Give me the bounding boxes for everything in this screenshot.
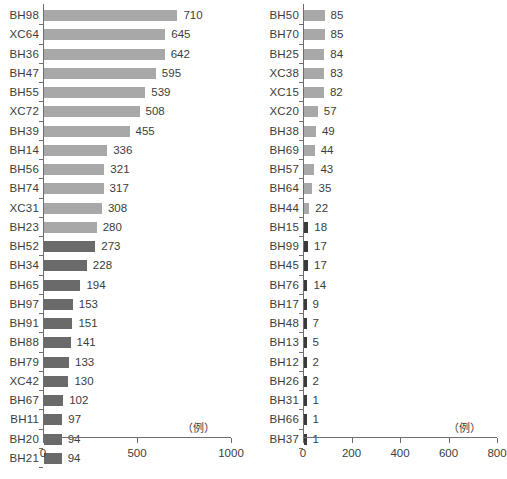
bar-value-label: 273 xyxy=(101,237,120,256)
bar xyxy=(304,68,324,79)
bar xyxy=(44,10,177,21)
bar xyxy=(44,260,87,271)
bar-row: BH7085 xyxy=(253,25,505,44)
bar-value-label: 85 xyxy=(331,25,344,44)
category-label: BH25 xyxy=(259,45,299,64)
bar-value-label: 642 xyxy=(171,45,190,64)
category-label: BH74 xyxy=(0,179,39,198)
bar-row: XC72508 xyxy=(0,102,252,121)
bar xyxy=(44,434,62,445)
category-label: BH88 xyxy=(0,333,39,352)
bar-value-label: 153 xyxy=(79,295,98,314)
bar-value-label: 85 xyxy=(331,6,344,25)
bar-row: BH97153 xyxy=(0,295,252,314)
bar xyxy=(304,376,307,387)
bar-row: BH47595 xyxy=(0,64,252,83)
bar xyxy=(304,164,314,175)
bar xyxy=(44,414,62,425)
bar-row: BH3849 xyxy=(253,122,505,141)
bar-value-label: 455 xyxy=(136,122,155,141)
bar xyxy=(44,68,156,79)
category-label: BH12 xyxy=(259,353,299,372)
bar-value-label: 83 xyxy=(330,64,343,83)
category-label: BH52 xyxy=(0,237,39,256)
bar xyxy=(304,241,308,252)
category-label: BH14 xyxy=(0,141,39,160)
bar-value-label: 2 xyxy=(313,353,319,372)
bar xyxy=(304,318,307,329)
bar-row: BH179 xyxy=(253,295,505,314)
category-label: BH55 xyxy=(0,83,39,102)
x-axis-tick xyxy=(352,438,353,443)
x-axis-tick xyxy=(303,438,304,443)
category-label: XC20 xyxy=(259,102,299,121)
x-axis-tick xyxy=(231,438,232,443)
category-label: BH13 xyxy=(259,333,299,352)
bar xyxy=(304,299,307,310)
bar xyxy=(304,395,307,406)
bar-value-label: 1 xyxy=(313,391,319,410)
category-label: BH47 xyxy=(0,64,39,83)
category-label: BH44 xyxy=(259,199,299,218)
bar xyxy=(304,203,309,214)
bar-row: BH65194 xyxy=(0,276,252,295)
bar-row: BH5085 xyxy=(253,6,505,25)
bar xyxy=(44,337,71,348)
bar-value-label: 710 xyxy=(183,6,202,25)
bar-row: XC64645 xyxy=(0,25,252,44)
bar xyxy=(304,106,318,117)
x-axis-tick-label: 500 xyxy=(127,447,146,459)
category-label: BH79 xyxy=(0,353,39,372)
bar-value-label: 7 xyxy=(313,314,319,333)
bar xyxy=(44,453,62,464)
category-label: BH91 xyxy=(0,314,39,333)
bar-row: BH487 xyxy=(253,314,505,333)
bar-value-label: 17 xyxy=(314,237,327,256)
bar-value-label: 18 xyxy=(314,218,327,237)
bar xyxy=(44,395,63,406)
bar xyxy=(44,29,165,40)
y-axis xyxy=(43,4,44,437)
bar xyxy=(304,260,308,271)
bar-value-label: 5 xyxy=(313,333,319,352)
bar xyxy=(304,29,325,40)
bar-value-label: 194 xyxy=(86,276,105,295)
bar xyxy=(44,49,165,60)
bar xyxy=(304,87,324,98)
bar-row: BH1518 xyxy=(253,218,505,237)
bar-row: BH9917 xyxy=(253,237,505,256)
unit-label: （例） xyxy=(182,419,215,435)
unit-label: （例） xyxy=(448,419,481,435)
bar xyxy=(44,183,104,194)
y-axis-tick xyxy=(39,467,43,468)
bar-value-label: 43 xyxy=(320,160,333,179)
bar xyxy=(44,299,73,310)
bar-row: XC31308 xyxy=(0,199,252,218)
category-label: XC72 xyxy=(0,102,39,121)
bar-value-label: 317 xyxy=(110,179,129,198)
bar-row: BH6944 xyxy=(253,141,505,160)
bar-row: BH39455 xyxy=(0,122,252,141)
bar xyxy=(304,183,312,194)
category-label: XC31 xyxy=(0,199,39,218)
chart-panel-left: BH98710XC64645BH36642BH47595BH55539XC725… xyxy=(0,0,252,479)
bar xyxy=(44,241,95,252)
category-label: BH37 xyxy=(259,430,299,449)
category-label: XC15 xyxy=(259,83,299,102)
bar xyxy=(44,106,140,117)
category-label: XC64 xyxy=(0,25,39,44)
x-axis-tick xyxy=(449,438,450,443)
bar-value-label: 151 xyxy=(78,314,97,333)
bar-value-label: 17 xyxy=(314,256,327,275)
category-label: BH45 xyxy=(259,256,299,275)
category-label: BH57 xyxy=(259,160,299,179)
bar-value-label: 2 xyxy=(313,372,319,391)
bar-value-label: 1 xyxy=(313,430,319,449)
bar-value-label: 280 xyxy=(103,218,122,237)
bar-row: BH122 xyxy=(253,353,505,372)
x-axis-tick-label: 600 xyxy=(439,447,458,459)
category-label: BH26 xyxy=(259,372,299,391)
bar-row: XC3883 xyxy=(253,64,505,83)
bar xyxy=(304,145,315,156)
category-label: BH34 xyxy=(0,256,39,275)
